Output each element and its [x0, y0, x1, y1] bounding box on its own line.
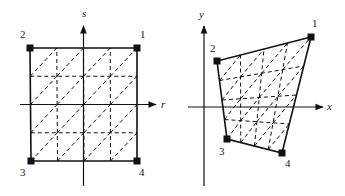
node-2-label: 2 [20, 28, 26, 40]
diagonal-line [259, 70, 282, 98]
diagonal-line [84, 48, 111, 76]
diagonal-line [257, 96, 278, 122]
node-1-marker [134, 45, 141, 52]
diagonal-line [222, 77, 241, 100]
node-3-label: 3 [20, 166, 26, 178]
mapped-element-diagram: 1234 [188, 17, 323, 186]
s-axis-label: s [82, 7, 86, 19]
node-3-marker [28, 158, 35, 165]
isoparametric-mapping-figure: 1234 1234 s r y x [0, 0, 345, 196]
diagonal-line [57, 48, 84, 76]
diagonal-line [57, 76, 84, 104]
diagonal-line [111, 133, 138, 161]
x-axis-label: x [326, 100, 332, 112]
parent-element-diagram: 1234 [20, 26, 156, 186]
diagonal-line [84, 133, 110, 161]
node-4-marker [134, 158, 141, 165]
diagonal-line [57, 105, 83, 133]
diagonal-line [255, 123, 274, 146]
node-2-marker [27, 45, 34, 52]
diagonal-line [84, 105, 111, 133]
diagonal-line [84, 76, 111, 104]
diagonal-line [110, 48, 137, 76]
diagonal-line [241, 73, 262, 99]
diagonal-line [31, 105, 57, 133]
node-4-label: 4 [285, 157, 291, 169]
node-1-marker [308, 34, 315, 41]
node-3-marker [224, 136, 231, 143]
node-3-label: 3 [219, 145, 225, 157]
diagonal-line [110, 76, 137, 104]
node-1-label: 1 [140, 28, 146, 40]
diagonal-line [225, 99, 241, 120]
diagonal-line [58, 133, 84, 161]
node-2-label: 2 [210, 42, 216, 54]
node-2-marker [214, 58, 221, 65]
diagonal-line [30, 48, 57, 76]
node-1-label: 1 [312, 17, 318, 29]
diagonal-line [110, 105, 137, 133]
y-axis-label: y [198, 8, 204, 20]
diagonal-line [241, 122, 257, 143]
node-4-label: 4 [139, 166, 145, 178]
node-4-marker [279, 150, 286, 157]
diagonal-line [31, 76, 57, 104]
diagonal-line [31, 133, 57, 161]
element-boundary [217, 37, 311, 153]
r-axis-label: r [161, 98, 166, 110]
diagonal-line [241, 49, 264, 77]
diagonal-line [241, 98, 260, 121]
